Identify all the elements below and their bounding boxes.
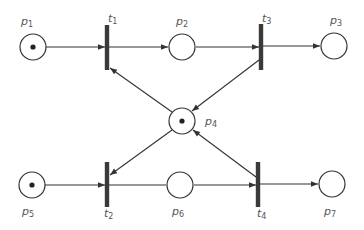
place-circle — [321, 33, 347, 59]
arc-p4-to-t1 — [110, 68, 172, 112]
transition-t2 — [105, 162, 109, 207]
place-label-p7: p7 — [323, 205, 336, 219]
token-icon — [30, 44, 35, 49]
place-p4 — [169, 108, 195, 134]
place-label-p1: p1 — [20, 15, 33, 29]
place-circle — [169, 34, 195, 60]
transition-label-t4: t4 — [257, 207, 266, 221]
transition-label-t3: t3 — [262, 12, 271, 26]
transition-t3 — [259, 24, 263, 70]
place-p1 — [20, 34, 46, 60]
token-icon — [29, 182, 34, 187]
transition-t1 — [105, 25, 109, 70]
petri-net-diagram: p1p2p3p4p5p6p7t1t3t2t4 — [0, 0, 364, 230]
place-p5 — [19, 172, 45, 198]
arc-t3-to-p4 — [192, 60, 259, 111]
place-p3 — [321, 33, 347, 59]
arc-t4-to-p4 — [193, 130, 256, 177]
place-circle — [319, 171, 345, 197]
place-label-p2: p2 — [175, 15, 188, 29]
place-p6 — [167, 172, 193, 198]
place-p7 — [319, 171, 345, 197]
place-label-p3: p3 — [329, 14, 342, 28]
place-circle — [167, 172, 193, 198]
arc-p4-to-t2 — [110, 130, 172, 175]
transition-label-t2: t2 — [104, 207, 113, 221]
transition-t4 — [256, 162, 260, 207]
transition-label-t1: t1 — [108, 12, 117, 26]
place-label-p5: p5 — [21, 205, 34, 219]
place-label-p6: p6 — [171, 205, 184, 219]
places-layer — [19, 33, 347, 198]
token-icon — [179, 118, 184, 123]
place-label-p4: p4 — [204, 115, 217, 129]
place-p2 — [169, 34, 195, 60]
